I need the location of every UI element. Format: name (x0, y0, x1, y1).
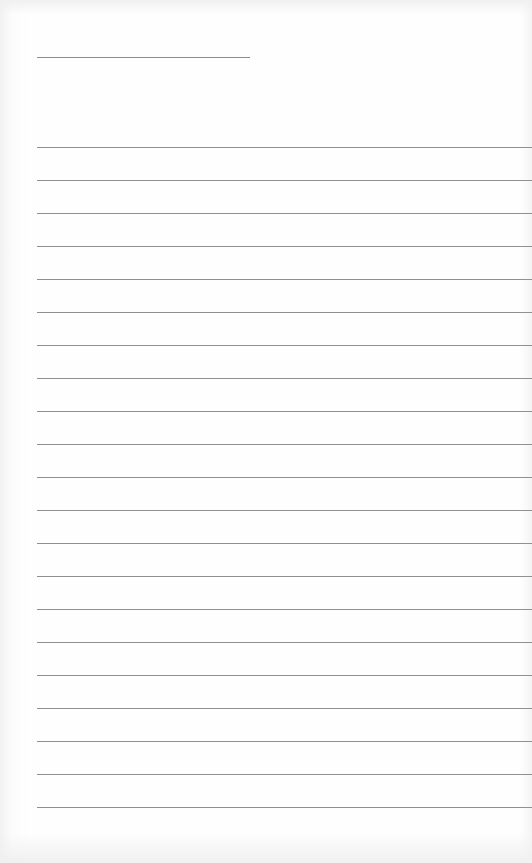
top-shadow (0, 0, 532, 14)
ruled-line (37, 312, 532, 313)
ruled-line (37, 807, 532, 808)
ruled-line (37, 279, 532, 280)
ruled-line (37, 510, 532, 511)
ruled-line (37, 642, 532, 643)
ruled-line (37, 576, 532, 577)
bottom-shadow (0, 833, 532, 863)
ruled-line (37, 180, 532, 181)
ruled-line (37, 411, 532, 412)
ruled-line (37, 246, 532, 247)
ruled-line (37, 609, 532, 610)
ruled-line (37, 213, 532, 214)
lined-paper-sheet (0, 0, 532, 863)
header-name-line (37, 57, 250, 58)
ruled-line (37, 477, 532, 478)
ruled-line (37, 675, 532, 676)
ruled-line (37, 444, 532, 445)
ruled-line (37, 774, 532, 775)
ruled-line (37, 543, 532, 544)
ruled-line (37, 345, 532, 346)
ruled-line (37, 708, 532, 709)
ruled-line (37, 378, 532, 379)
ruled-line (37, 741, 532, 742)
ruled-line (37, 147, 532, 148)
